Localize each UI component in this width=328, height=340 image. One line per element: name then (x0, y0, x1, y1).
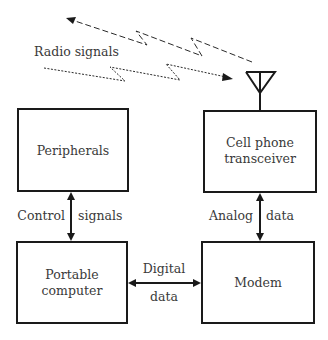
portable-computer-label-line2: computer (42, 283, 103, 298)
peripherals-label: Peripherals (37, 143, 110, 158)
analog-label: Analog (208, 208, 253, 223)
antenna-icon (246, 72, 275, 111)
portable-computer-label-line1: Portable (45, 267, 98, 282)
signals-label: signals (78, 208, 122, 223)
digital-data-connector: Digital data (128, 261, 201, 304)
cell-phone-label-line2: transceiver (224, 151, 296, 166)
control-signals-connector: Control signals (17, 192, 122, 241)
modem-node: Modem (202, 242, 314, 323)
analog-data-connector: Analog data (208, 193, 295, 241)
peripherals-node: Peripherals (18, 109, 128, 191)
digital-data-label: data (150, 289, 178, 304)
modem-label: Modem (234, 275, 282, 290)
incoming-radio-signal (44, 64, 233, 81)
radio-signals-label: Radio signals (34, 44, 119, 59)
block-diagram: Radio signals Peripherals Cell phone tra… (0, 0, 328, 340)
cell-phone-label-line1: Cell phone (226, 135, 294, 150)
analog-data-label: data (266, 208, 294, 223)
cell-phone-transceiver-node: Cell phone transceiver (204, 111, 316, 192)
digital-label: Digital (143, 261, 186, 276)
portable-computer-node: Portable computer (17, 242, 127, 323)
control-label: Control (17, 208, 65, 223)
